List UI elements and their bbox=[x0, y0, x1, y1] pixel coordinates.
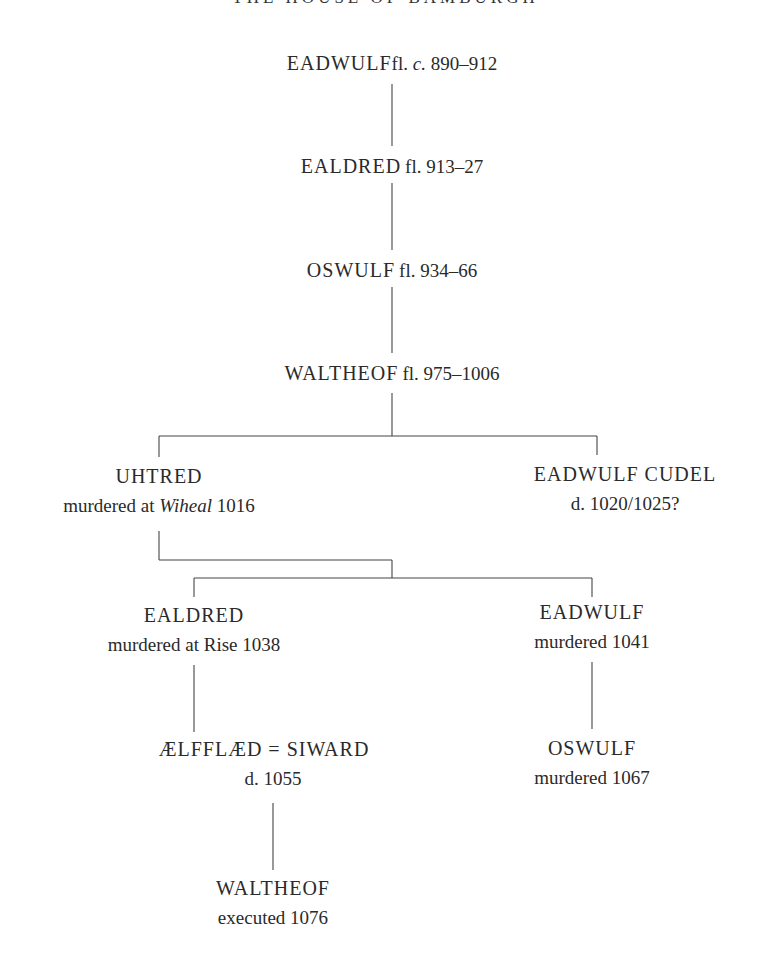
node-waltheof-1076: WALTHEOF executed 1076 bbox=[216, 873, 330, 933]
node-eadwulf-1041: EADWULF murdered 1041 bbox=[534, 597, 650, 657]
node-ealdred-913: EALDRED fl. 913–27 bbox=[301, 151, 483, 182]
node-aelfflaed-siward: ÆLFFLÆD = SIWARD d. 1055 bbox=[159, 734, 370, 794]
node-oswulf-1067: OSWULF murdered 1067 bbox=[534, 733, 650, 793]
node-uhtred: UHTRED murdered at Wiheal 1016 bbox=[63, 461, 255, 521]
node-oswulf-934: OSWULF fl. 934–66 bbox=[307, 255, 477, 286]
node-eadwulf-890: EADWULFfl. c. 890–912 bbox=[287, 48, 497, 79]
node-waltheof-975: WALTHEOF fl. 975–1006 bbox=[284, 358, 499, 389]
node-eadwulf-cudel: EADWULF CUDEL d. 1020/1025? bbox=[534, 459, 716, 519]
node-ealdred-1038: EALDRED murdered at Rise 1038 bbox=[108, 600, 281, 660]
